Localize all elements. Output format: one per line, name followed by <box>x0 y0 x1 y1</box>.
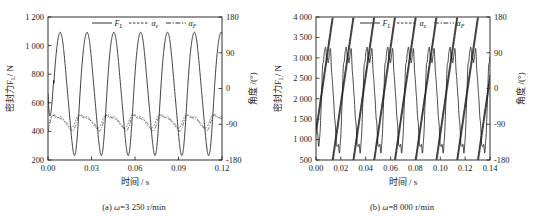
x-tick-label: 0.04 <box>358 164 373 173</box>
x-tick-label: 0.06 <box>128 164 143 173</box>
y-tick-label-left: 1 200 <box>25 13 44 22</box>
x-axis-title: 时间 / s <box>389 176 418 187</box>
x-axis-title: 时间 / s <box>121 176 150 187</box>
y-tick-label-right: 180 <box>494 13 507 22</box>
chart-a-svg: 2004006008001 0001 200-180-900901800.000… <box>0 0 268 216</box>
y-tick-label-left: 2 000 <box>293 95 312 104</box>
x-tick-label: 0.12 <box>458 164 473 173</box>
y-tick-label-right: 0 <box>494 84 498 93</box>
x-tick-label: 0.02 <box>334 164 349 173</box>
y-tick-label-left: 1 000 <box>25 42 44 51</box>
series-fl-curve <box>48 32 222 155</box>
x-tick-label: 0.12 <box>215 164 230 173</box>
x-tick-label: 0.14 <box>483 164 498 173</box>
legend-label: αF <box>189 19 197 29</box>
panel-b-caption: (b) ω=8 000 r/min <box>268 202 536 212</box>
y-tick-label-right: 90 <box>494 49 502 58</box>
y-tick-label-right: 180 <box>226 13 239 22</box>
legend-label: αe <box>420 19 427 29</box>
legend-label: αe <box>152 19 159 29</box>
x-tick-label: 0.00 <box>41 164 56 173</box>
panel-b-caption-prefix: (b) <box>370 202 382 212</box>
y-axis-title-left: 密封力FL/ N <box>4 64 16 112</box>
x-tick-label: 0.06 <box>383 164 398 173</box>
legend-label: FL <box>382 19 391 29</box>
figure-container: 2004006008001 0001 200-180-900901800.000… <box>0 0 536 216</box>
y-tick-label-left: 4 000 <box>293 13 312 22</box>
legend-label: FL <box>114 19 123 29</box>
x-tick-label: 0.09 <box>171 164 186 173</box>
panel-b-plot: 5001 0001 5002 0002 5003 0003 5004 000-1… <box>268 0 536 216</box>
x-tick-label: 0.03 <box>84 164 99 173</box>
y-tick-label-left: 1 000 <box>293 135 312 144</box>
y-tick-label-left: 600 <box>31 99 44 108</box>
x-tick-label: 0.08 <box>408 164 423 173</box>
chart-b-svg: 5001 0001 5002 0002 5003 0003 5004 000-1… <box>268 0 536 216</box>
x-tick-label: 0.10 <box>433 164 448 173</box>
y-axis-title-left: 密封力FL/ N <box>272 64 284 112</box>
panel-a-caption: (a) ω=3 250 r/min <box>0 202 268 212</box>
y-tick-label-left: 2 500 <box>293 74 312 83</box>
x-tick-label: 0.00 <box>309 164 324 173</box>
y-tick-label-left: 3 000 <box>293 54 312 63</box>
y-tick-label-right: -90 <box>494 120 505 129</box>
y-tick-label-right: -90 <box>226 120 237 129</box>
series-alpha-e-curve <box>48 115 222 128</box>
y-tick-label-right: 90 <box>226 49 234 58</box>
y-tick-label-right: 0 <box>226 84 230 93</box>
y-tick-label-left: 400 <box>31 127 44 136</box>
panel-a: 2004006008001 0001 200-180-900901800.000… <box>0 0 268 216</box>
panel-a-plot: 2004006008001 0001 200-180-900901800.000… <box>0 0 268 216</box>
y-axis-title-right: 角度 /(°) <box>247 72 258 104</box>
y-tick-label-left: 800 <box>31 70 44 79</box>
y-tick-label-left: 3 500 <box>293 33 312 42</box>
y-axis-title-right: 角度 /(°) <box>515 72 526 104</box>
panel-a-caption-rest: =3 250 r/min <box>120 202 166 212</box>
panel-b: 5001 0001 5002 0002 5003 0003 5004 000-1… <box>268 0 536 216</box>
panel-a-caption-prefix: (a) <box>102 202 114 212</box>
y-tick-label-left: 1 500 <box>293 115 312 124</box>
panel-b-caption-rest: =8 000 r/min <box>388 202 434 212</box>
